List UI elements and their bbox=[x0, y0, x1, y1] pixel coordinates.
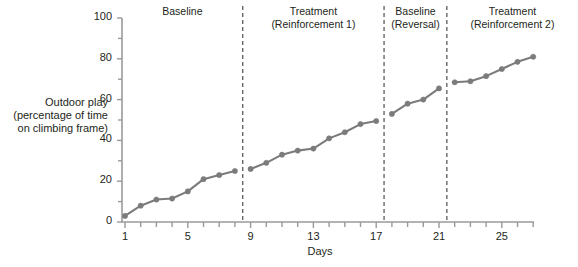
data-point bbox=[248, 166, 253, 171]
chart-container: Outdoor play (percentage of time on clim… bbox=[0, 0, 578, 267]
data-point bbox=[217, 172, 222, 177]
data-point bbox=[436, 86, 441, 91]
data-point bbox=[468, 79, 473, 84]
data-point bbox=[279, 152, 284, 157]
data-point bbox=[232, 168, 237, 173]
y-tick-label: 0 bbox=[70, 214, 112, 226]
data-point bbox=[452, 80, 457, 85]
data-point bbox=[295, 148, 300, 153]
data-point bbox=[201, 177, 206, 182]
data-point bbox=[311, 146, 316, 151]
data-point bbox=[154, 197, 159, 202]
y-tick-label: 40 bbox=[70, 132, 112, 144]
data-point bbox=[170, 196, 175, 201]
data-point bbox=[358, 121, 363, 126]
y-tick-label: 80 bbox=[70, 51, 112, 63]
data-point bbox=[405, 101, 410, 106]
line-segment-treatment-2 bbox=[455, 57, 534, 83]
data-point bbox=[342, 130, 347, 135]
data-point bbox=[421, 97, 426, 102]
data-point bbox=[185, 189, 190, 194]
x-tick-label: 13 bbox=[293, 230, 333, 242]
x-tick-label: 21 bbox=[419, 230, 459, 242]
x-tick-label: 5 bbox=[168, 230, 208, 242]
y-tick-label: 20 bbox=[70, 173, 112, 185]
data-point bbox=[374, 118, 379, 123]
y-tick-label: 60 bbox=[70, 92, 112, 104]
data-point bbox=[499, 66, 504, 71]
x-tick-label: 17 bbox=[356, 230, 396, 242]
x-axis-title: Days bbox=[290, 245, 350, 257]
data-point bbox=[515, 59, 520, 64]
x-tick-label: 25 bbox=[482, 230, 522, 242]
phase-label-line: (Reinforcement 2) bbox=[432, 18, 578, 31]
data-point bbox=[327, 136, 332, 141]
data-point bbox=[138, 203, 143, 208]
data-point bbox=[122, 213, 127, 218]
data-point bbox=[531, 54, 536, 59]
phase-label-treatment-2: Treatment(Reinforcement 2) bbox=[432, 5, 578, 30]
x-tick-label: 1 bbox=[105, 230, 145, 242]
data-point bbox=[389, 111, 394, 116]
phase-label-line: Treatment bbox=[432, 5, 578, 18]
data-point bbox=[484, 74, 489, 79]
data-point bbox=[264, 160, 269, 165]
line-segment-baseline-reversal bbox=[392, 88, 439, 114]
y-axis-title-line-2: (percentage of time bbox=[8, 109, 108, 122]
line-segment-treatment-1 bbox=[251, 121, 377, 169]
x-tick-label: 9 bbox=[231, 230, 271, 242]
